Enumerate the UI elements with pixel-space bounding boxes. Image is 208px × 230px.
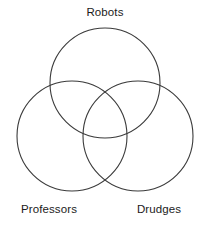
venn-circle-professors [17,81,127,191]
venn-diagram-canvas: Robots Professors Drudges [0,0,208,230]
venn-label-professors: Professors [21,203,77,215]
venn-diagram-figure: Robots Professors Drudges [0,0,208,230]
venn-circle-robots [50,28,160,138]
venn-circle-drudges [83,81,193,191]
venn-label-robots: Robots [86,6,123,18]
venn-label-drudges: Drudges [137,203,181,215]
